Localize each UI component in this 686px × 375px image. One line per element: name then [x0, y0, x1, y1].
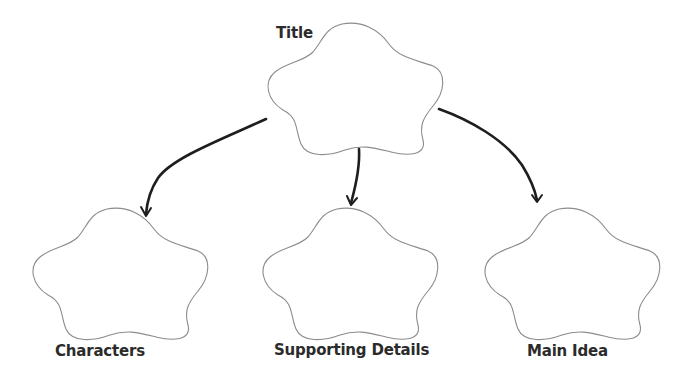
- arrow-title-to-supporting-details: [347, 149, 359, 205]
- characters-label: Characters: [55, 342, 145, 360]
- title-label: Title: [276, 24, 313, 42]
- title-flower-shape: [268, 23, 443, 154]
- main-idea-flower-shape: [485, 208, 660, 339]
- main-idea-label: Main Idea: [527, 342, 608, 360]
- arrow-title-to-characters: [141, 119, 266, 216]
- supporting-details-label: Supporting Details: [274, 341, 429, 359]
- supporting-details-flower-shape: [263, 208, 438, 339]
- diagram-canvas: [0, 0, 686, 375]
- arrow-title-to-main-idea: [439, 109, 542, 202]
- characters-flower-shape: [33, 208, 208, 339]
